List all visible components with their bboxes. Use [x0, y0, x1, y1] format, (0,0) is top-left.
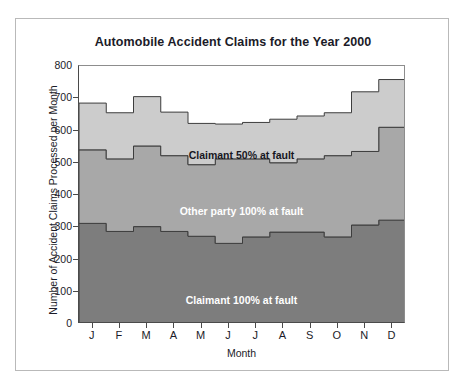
x-tick-mark	[119, 323, 120, 328]
y-tick-label: 800	[42, 59, 72, 71]
x-tick-label: A	[270, 329, 294, 341]
x-tick-label: A	[161, 329, 185, 341]
x-tick-label: S	[298, 329, 322, 341]
chart-figure: Automobile Accident Claims for the Year …	[15, 18, 449, 371]
x-tick-mark	[255, 323, 256, 328]
x-tick-label: J	[216, 329, 240, 341]
x-tick-label: J	[80, 329, 104, 341]
x-axis-tick-labels: JFMAMJJASOND	[78, 329, 405, 345]
x-tick-mark	[391, 323, 392, 328]
x-tick-mark	[201, 323, 202, 328]
x-tick-mark	[282, 323, 283, 328]
series-label-other-party-100: Other party 100% at fault	[79, 205, 404, 217]
plot-area: Claimant 50% at fault Other party 100% a…	[78, 65, 405, 323]
x-tick-mark	[146, 323, 147, 328]
x-axis-title: Month	[78, 347, 405, 359]
x-tick-mark	[310, 323, 311, 328]
x-tick-label: D	[379, 329, 403, 341]
x-tick-label: F	[107, 329, 131, 341]
y-axis-title: Number of Accident Claims Processed per …	[47, 71, 59, 329]
x-tick-label: O	[325, 329, 349, 341]
x-tick-mark	[92, 323, 93, 328]
x-tick-label: M	[134, 329, 158, 341]
x-tick-mark	[228, 323, 229, 328]
x-tick-label: N	[352, 329, 376, 341]
stacked-area-series	[79, 66, 405, 323]
x-tick-label: M	[189, 329, 213, 341]
x-tick-label: J	[243, 329, 267, 341]
x-tick-mark	[337, 323, 338, 328]
x-tick-mark	[364, 323, 365, 328]
chart-title: Automobile Accident Claims for the Year …	[16, 35, 450, 49]
series-label-claimant-100: Claimant 100% at fault	[79, 294, 404, 306]
x-tick-mark	[173, 323, 174, 328]
series-label-claimant-50: Claimant 50% at fault	[79, 149, 404, 161]
